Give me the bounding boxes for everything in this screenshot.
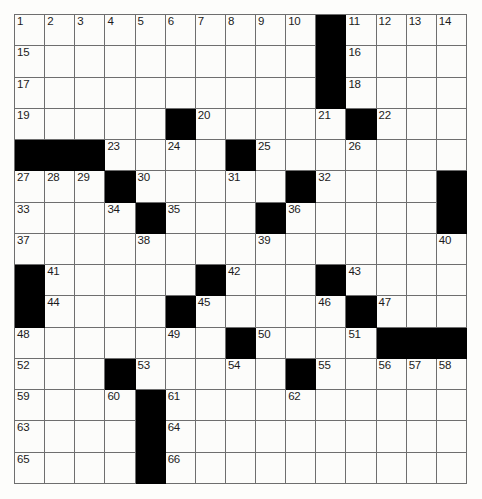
crossword-cell[interactable] xyxy=(136,46,166,77)
crossword-cell[interactable] xyxy=(407,265,437,296)
crossword-cell[interactable] xyxy=(75,234,105,265)
crossword-cell[interactable]: 10 xyxy=(286,15,316,46)
crossword-cell[interactable] xyxy=(437,140,467,171)
crossword-cell[interactable] xyxy=(286,234,316,265)
crossword-cell[interactable]: 7 xyxy=(196,15,226,46)
crossword-cell[interactable] xyxy=(256,296,286,327)
crossword-cell[interactable]: 16 xyxy=(346,46,376,77)
crossword-cell[interactable]: 13 xyxy=(407,15,437,46)
crossword-cell[interactable] xyxy=(45,78,75,109)
crossword-cell[interactable]: 65 xyxy=(15,453,45,484)
crossword-cell[interactable] xyxy=(136,265,166,296)
crossword-cell[interactable]: 56 xyxy=(377,359,407,390)
crossword-cell[interactable]: 66 xyxy=(166,453,196,484)
crossword-cell[interactable] xyxy=(377,453,407,484)
crossword-cell[interactable]: 38 xyxy=(136,234,166,265)
crossword-cell[interactable]: 39 xyxy=(256,234,286,265)
crossword-cell[interactable] xyxy=(377,78,407,109)
crossword-cell[interactable]: 19 xyxy=(15,109,45,140)
crossword-cell[interactable] xyxy=(75,265,105,296)
crossword-cell[interactable]: 9 xyxy=(256,15,286,46)
crossword-cell[interactable] xyxy=(256,359,286,390)
crossword-cell[interactable]: 5 xyxy=(136,15,166,46)
crossword-cell[interactable] xyxy=(286,328,316,359)
crossword-cell[interactable] xyxy=(226,46,256,77)
crossword-cell[interactable]: 60 xyxy=(105,390,135,421)
crossword-cell[interactable] xyxy=(437,46,467,77)
crossword-cell[interactable] xyxy=(346,390,376,421)
crossword-cell[interactable]: 23 xyxy=(105,140,135,171)
crossword-cell[interactable] xyxy=(75,421,105,452)
crossword-cell[interactable] xyxy=(437,265,467,296)
crossword-cell[interactable] xyxy=(166,78,196,109)
crossword-cell[interactable] xyxy=(346,234,376,265)
crossword-cell[interactable] xyxy=(45,203,75,234)
crossword-cell[interactable]: 2 xyxy=(45,15,75,46)
crossword-cell[interactable]: 61 xyxy=(166,390,196,421)
crossword-cell[interactable]: 6 xyxy=(166,15,196,46)
crossword-cell[interactable] xyxy=(256,171,286,202)
crossword-cell[interactable] xyxy=(316,140,346,171)
crossword-cell[interactable] xyxy=(407,46,437,77)
crossword-cell[interactable] xyxy=(286,421,316,452)
crossword-cell[interactable] xyxy=(437,453,467,484)
crossword-cell[interactable] xyxy=(407,78,437,109)
crossword-cell[interactable] xyxy=(45,109,75,140)
crossword-cell[interactable] xyxy=(105,46,135,77)
crossword-cell[interactable] xyxy=(75,109,105,140)
crossword-cell[interactable] xyxy=(105,78,135,109)
crossword-cell[interactable] xyxy=(377,234,407,265)
crossword-cell[interactable] xyxy=(105,234,135,265)
crossword-cell[interactable] xyxy=(377,390,407,421)
crossword-cell[interactable] xyxy=(45,328,75,359)
crossword-cell[interactable] xyxy=(346,421,376,452)
crossword-cell[interactable]: 21 xyxy=(316,109,346,140)
crossword-cell[interactable]: 43 xyxy=(346,265,376,296)
crossword-cell[interactable] xyxy=(407,109,437,140)
crossword-cell[interactable]: 20 xyxy=(196,109,226,140)
crossword-cell[interactable] xyxy=(196,390,226,421)
crossword-cell[interactable]: 62 xyxy=(286,390,316,421)
crossword-cell[interactable]: 11 xyxy=(346,15,376,46)
crossword-cell[interactable] xyxy=(166,359,196,390)
crossword-cell[interactable] xyxy=(377,171,407,202)
crossword-cell[interactable]: 32 xyxy=(316,171,346,202)
crossword-cell[interactable] xyxy=(377,140,407,171)
crossword-cell[interactable] xyxy=(136,140,166,171)
crossword-cell[interactable] xyxy=(166,234,196,265)
crossword-cell[interactable] xyxy=(437,109,467,140)
crossword-cell[interactable] xyxy=(407,140,437,171)
crossword-cell[interactable]: 49 xyxy=(166,328,196,359)
crossword-cell[interactable]: 35 xyxy=(166,203,196,234)
crossword-cell[interactable]: 52 xyxy=(15,359,45,390)
crossword-cell[interactable] xyxy=(196,46,226,77)
crossword-cell[interactable] xyxy=(45,46,75,77)
crossword-cell[interactable] xyxy=(407,203,437,234)
crossword-cell[interactable] xyxy=(256,453,286,484)
crossword-cell[interactable] xyxy=(75,46,105,77)
crossword-cell[interactable]: 34 xyxy=(105,203,135,234)
crossword-cell[interactable] xyxy=(196,359,226,390)
crossword-cell[interactable]: 36 xyxy=(286,203,316,234)
crossword-cell[interactable]: 55 xyxy=(316,359,346,390)
crossword-cell[interactable]: 51 xyxy=(346,328,376,359)
crossword-cell[interactable] xyxy=(256,421,286,452)
crossword-cell[interactable] xyxy=(105,109,135,140)
crossword-cell[interactable] xyxy=(346,203,376,234)
crossword-cell[interactable] xyxy=(196,203,226,234)
crossword-cell[interactable]: 33 xyxy=(15,203,45,234)
crossword-cell[interactable] xyxy=(286,265,316,296)
crossword-cell[interactable] xyxy=(316,203,346,234)
crossword-cell[interactable] xyxy=(196,234,226,265)
crossword-cell[interactable]: 14 xyxy=(437,15,467,46)
crossword-cell[interactable] xyxy=(136,296,166,327)
crossword-cell[interactable]: 30 xyxy=(136,171,166,202)
crossword-cell[interactable] xyxy=(196,78,226,109)
crossword-cell[interactable]: 27 xyxy=(15,171,45,202)
crossword-cell[interactable]: 37 xyxy=(15,234,45,265)
crossword-cell[interactable] xyxy=(196,140,226,171)
crossword-cell[interactable] xyxy=(45,453,75,484)
crossword-cell[interactable]: 15 xyxy=(15,46,45,77)
crossword-cell[interactable]: 26 xyxy=(346,140,376,171)
crossword-cell[interactable]: 40 xyxy=(437,234,467,265)
